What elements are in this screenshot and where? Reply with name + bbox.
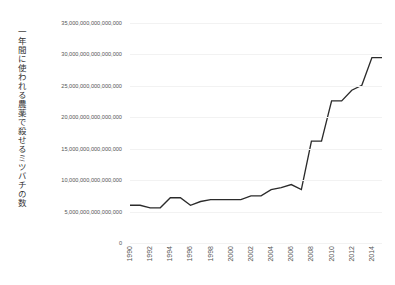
x-axis-tick-label: 2006 xyxy=(287,246,294,262)
y-axis-tick-label: 10,000,000,000,000,000 xyxy=(61,177,122,183)
y-axis-tick-label: 15,000,000,000,000,000 xyxy=(61,146,122,152)
gridline xyxy=(130,117,382,118)
y-axis-tick-labels: 35,000,000,000,000,00030,000,000,000,000… xyxy=(0,0,128,285)
x-axis-tick-label: 1992 xyxy=(146,246,153,262)
x-axis-tick-label: 2002 xyxy=(247,246,254,262)
x-axis-tick-label: 2012 xyxy=(348,246,355,262)
x-axis-tick-labels: 1990199219941996199820002002200420062008… xyxy=(130,246,382,284)
gridline xyxy=(130,243,382,244)
x-axis-tick-label: 1994 xyxy=(166,246,173,262)
x-axis-tick-label: 1998 xyxy=(207,246,214,262)
y-axis-tick-label: 35,000,000,000,000,000 xyxy=(61,20,122,26)
plot-area xyxy=(130,23,382,243)
y-axis-tick-label: 30,000,000,000,000,000 xyxy=(61,51,122,57)
chart-container: 一年間に使われる農薬で殺せるミツバチの数 35,000,000,000,000,… xyxy=(0,0,395,285)
gridline xyxy=(130,23,382,24)
x-axis-tick-label: 2010 xyxy=(328,246,335,262)
data-line-series xyxy=(130,58,382,208)
x-axis-tick-label: 2014 xyxy=(368,246,375,262)
x-axis-tick-label: 2000 xyxy=(227,246,234,262)
x-axis-tick-label: 2008 xyxy=(307,246,314,262)
x-axis-tick-label: 2004 xyxy=(267,246,274,262)
gridline xyxy=(130,149,382,150)
gridline xyxy=(130,54,382,55)
x-axis-tick-label: 1990 xyxy=(126,246,133,262)
data-series-svg xyxy=(130,23,382,243)
gridline xyxy=(130,86,382,87)
gridline xyxy=(130,180,382,181)
y-axis-tick-label: 20,000,000,000,000,000 xyxy=(61,114,122,120)
y-axis-tick-label: 0 xyxy=(119,240,122,246)
x-axis-tick-label: 1996 xyxy=(186,246,193,262)
gridline xyxy=(130,212,382,213)
y-axis-tick-label: 25,000,000,000,000,000 xyxy=(61,83,122,89)
y-axis-tick-label: 5,000,000,000,000,000 xyxy=(64,209,122,215)
